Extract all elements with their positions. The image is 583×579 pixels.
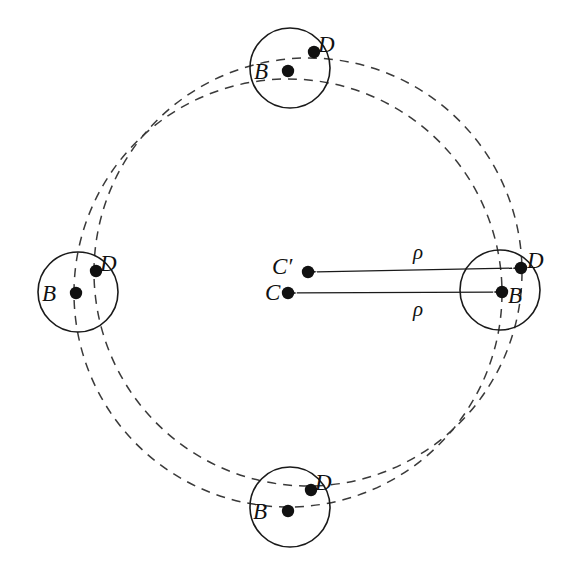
label-c: C [265,281,280,304]
orbit-circles [74,58,522,507]
label-d-bottom: D [315,471,332,494]
label-d-left: D [100,252,117,275]
label-d-right: D [527,249,544,272]
diagram-canvas [0,0,583,579]
label-rho-upper: ρ [413,242,423,263]
point-d-body-right [515,262,527,274]
label-b-right: B [508,284,522,307]
point-b-body-top [282,65,294,77]
label-d-top: D [318,33,335,56]
label-b-bottom: B [253,500,267,523]
label-left: B [42,282,56,305]
geometry-figure: BDBDBDBDC′Cρρ [0,0,583,579]
point-b-body-left [70,287,82,299]
label-b-top: B [254,60,268,83]
label-c-prime: C′ [272,255,292,278]
point-c-centre [282,287,294,299]
point-c-prime-centre [302,266,314,278]
point-b-body-bottom [282,505,294,517]
label-rho-lower: ρ [413,299,423,320]
point-b-body-right [496,286,508,298]
